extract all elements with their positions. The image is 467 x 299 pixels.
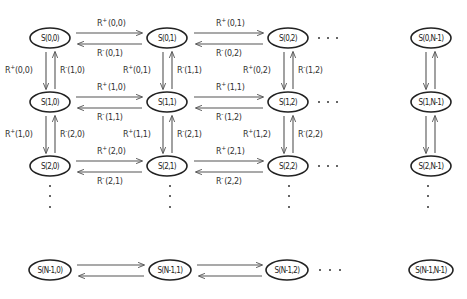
node-label: S(N-1,2) [275, 266, 301, 275]
rate-label-ri-minus: R-(2,1) [97, 174, 123, 186]
rate-label-rd-plus: R+(1,1) [123, 127, 151, 139]
rate-label-rd-plus: R+(0,0) [5, 63, 33, 75]
node-s-2-0: S(2,0) [30, 156, 70, 176]
node-s-n-1-0: S(N-1,0) [29, 260, 71, 280]
node-label: S(N-1,0) [38, 266, 64, 275]
node-label: S(1,2) [279, 98, 298, 107]
node-label: S(2,1) [158, 162, 177, 171]
rate-label-ri-plus: R+(0,0) [97, 16, 126, 28]
rate-label-rd-minus: R-(1,2) [298, 63, 323, 75]
node-s-0-2: S(0,2) [268, 28, 308, 48]
node-label: S(2,0) [41, 162, 60, 171]
node-label: S(N-1,1) [158, 266, 184, 275]
rate-label-ri-plus: R+(0,1) [216, 16, 245, 28]
rate-label-rd-minus: R-(1,1) [177, 63, 202, 75]
rate-label-ri-plus: R+(1,1) [216, 80, 245, 92]
node-label: S(2,N-1) [419, 162, 445, 171]
rate-label-ri-plus: R+(2,1) [216, 144, 245, 156]
node-s-1-2: S(1,2) [268, 92, 308, 112]
node-label: S(0,1) [158, 34, 177, 43]
node-s-0-1: S(0,1) [147, 28, 187, 48]
node-label: S(N-1,N-1) [415, 266, 447, 275]
rate-label-rd-minus: R-(1,0) [60, 63, 85, 75]
node-label: S(0,2) [279, 34, 298, 43]
rate-label-ri-minus: R-(0,1) [97, 46, 123, 58]
rate-label-rd-plus: R+(0,1) [123, 63, 151, 75]
rate-label-rd-plus: R+(1,2) [243, 127, 271, 139]
node-s-1-n-1: S(1,N-1) [411, 92, 451, 112]
rate-label-rd-plus: R+(1,0) [5, 127, 33, 139]
rate-label-ri-minus: R-(2,2) [216, 174, 242, 186]
node-s-1-0: S(1,0) [30, 92, 70, 112]
node-s-2-n-1: S(2,N-1) [411, 156, 451, 176]
rate-label-ri-minus: R-(0,2) [216, 46, 242, 58]
rate-label-ri-minus: R-(1,1) [97, 110, 123, 122]
node-s-2-2: S(2,2) [268, 156, 308, 176]
node-s-2-1: S(2,1) [147, 156, 187, 176]
vertical-ellipses [49, 185, 429, 208]
node-s-n-1-n-1: S(N-1,N-1) [409, 260, 453, 280]
rate-label-ri-plus: R+(2,0) [97, 144, 126, 156]
rate-label-ri-plus: R+(1,0) [97, 80, 126, 92]
node-label: S(1,N-1) [419, 98, 445, 107]
node-s-n-1-2: S(N-1,2) [266, 260, 308, 280]
rate-label-rd-minus: R-(2,0) [60, 127, 85, 139]
rate-label-ri-minus: R-(1,2) [216, 110, 242, 122]
node-s-0-0: S(0,0) [30, 28, 70, 48]
node-label: S(2,2) [279, 162, 298, 171]
node-label: S(1,1) [158, 98, 177, 107]
node-s-1-1: S(1,1) [147, 92, 187, 112]
vertical-arrows [46, 52, 435, 153]
node-s-n-1-1: S(N-1,1) [149, 260, 191, 280]
rate-label-rd-plus: R+(0,2) [243, 63, 271, 75]
rate-label-rd-minus: R-(2,2) [298, 127, 323, 139]
node-s-0-n-1: S(0,N-1) [411, 28, 451, 48]
rate-label-rd-minus: R-(2,1) [177, 127, 202, 139]
node-label: S(0,0) [41, 34, 60, 43]
node-label: S(0,N-1) [419, 34, 445, 43]
node-label: S(1,0) [41, 98, 60, 107]
state-transition-diagram: S(0,0) S(0,1) S(0,2) S(0,N-1) S(1,0) S(1… [0, 0, 467, 299]
